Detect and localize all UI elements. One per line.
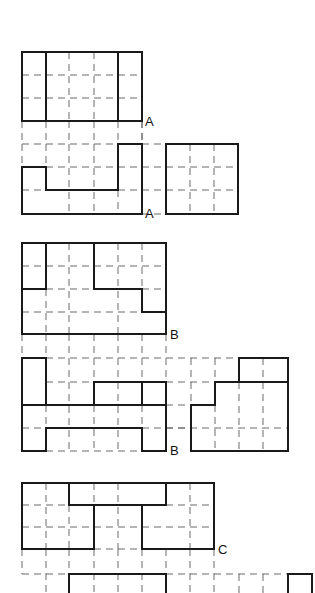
- figure-label-a: A: [145, 114, 154, 129]
- figure-A-bottom-dashed: [22, 121, 238, 214]
- figure-C-top-dashed: [22, 483, 214, 593]
- figure-labels: AABBC: [145, 114, 227, 557]
- figure-label-a: A: [145, 206, 154, 221]
- solid-outline-lines: [22, 52, 312, 593]
- figure-A-top-outline: [22, 52, 142, 121]
- figure-C-bottom-dashed: [22, 574, 288, 593]
- figure-B-bottom-outline: [22, 358, 288, 451]
- grid-projection-diagram: AABBC: [0, 0, 315, 593]
- dashed-grid-lines: [22, 52, 288, 593]
- figure-C-top-outline: [22, 483, 214, 549]
- figure-A-top-dashed: [22, 52, 142, 144]
- figure-A-bottom-outline: [22, 144, 238, 214]
- figure-label-b: B: [170, 327, 179, 342]
- figure-label-b: B: [170, 443, 179, 458]
- figure-label-c: C: [218, 542, 227, 557]
